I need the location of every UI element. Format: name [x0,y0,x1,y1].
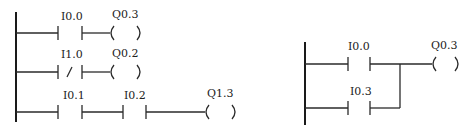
contact-no-icon [123,105,146,119]
contact-no-icon [348,57,370,71]
contact-label: I0.0 [61,10,83,23]
left-ladder-diagram: I0.0 Q0.3 I1.0 Q0.2 [16,8,235,122]
rung-3: I0.1 I0.2 Q1.3 [16,87,235,119]
contact-label: I0.3 [350,85,372,98]
contact-no-icon [348,101,370,115]
contact-label: I0.0 [348,40,370,53]
rung-2: I1.0 Q0.2 [16,47,140,79]
coil-icon [433,57,458,71]
coil-icon [206,105,235,119]
rung-1: I0.0 Q0.3 [16,8,140,40]
ladder-diagrams: I0.0 Q0.3 I1.0 Q0.2 [0,0,470,133]
coil-label: Q1.3 [207,87,234,100]
coil-label: Q0.3 [431,39,458,52]
contact-label: I1.0 [61,48,83,61]
right-ladder-diagram: I0.0 I0.3 Q0.3 [305,39,458,125]
contact-nc-icon [58,65,82,79]
contact-no-icon [58,26,82,40]
coil-label: Q0.2 [112,47,139,60]
coil-icon [111,26,140,40]
contact-label: I0.1 [63,89,85,102]
coil-icon [111,65,140,79]
contact-label: I0.2 [124,89,146,102]
contact-no-icon [58,105,82,119]
coil-label: Q0.3 [112,8,139,21]
